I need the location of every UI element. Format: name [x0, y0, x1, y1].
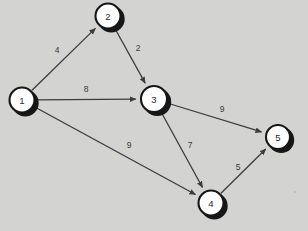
graph-figure: 12345 4289975 [0, 0, 308, 231]
edge-weight-4-to-5: 5 [236, 162, 241, 172]
edge-weight-3-to-4: 7 [188, 140, 193, 150]
graph-node-1[interactable]: 1 [10, 88, 39, 117]
graph-node-4[interactable]: 4 [199, 191, 228, 220]
graph-node-3[interactable]: 3 [141, 86, 171, 116]
graph-edge-3-to-5 [168, 103, 262, 132]
node-label-4: 4 [208, 198, 213, 209]
graph-edge-3-to-4 [161, 112, 203, 188]
graph-canvas: 12345 4289975 [0, 0, 308, 231]
graph-edge-2-to-3 [115, 28, 145, 83]
edge-weight-2-to-3: 2 [136, 43, 141, 53]
graph-node-2[interactable]: 2 [96, 4, 125, 33]
node-label-1: 1 [19, 95, 24, 106]
graph-edge-1-to-4 [34, 107, 195, 195]
edge-weight-1-to-3: 8 [84, 84, 89, 94]
nodes-layer: 12345 [10, 4, 295, 220]
edge-weight-3-to-5: 9 [220, 104, 225, 114]
graph-node-5[interactable]: 5 [266, 125, 294, 153]
node-label-3: 3 [151, 94, 156, 105]
graph-edge-1-to-2 [32, 28, 95, 90]
graph-edge-4-to-5 [221, 149, 266, 193]
edge-weight-1-to-2: 4 [55, 45, 60, 55]
edge-weight-1-to-4: 9 [127, 140, 132, 150]
node-label-2: 2 [105, 11, 110, 22]
node-label-5: 5 [275, 132, 280, 143]
paper-speck [294, 191, 296, 193]
graph-edge-1-to-3 [36, 99, 136, 100]
